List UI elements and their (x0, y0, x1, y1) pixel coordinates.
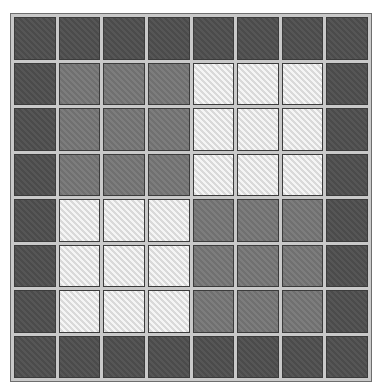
tile-medium[interactable] (193, 290, 235, 333)
tile-medium[interactable] (282, 290, 324, 333)
tile-light[interactable] (193, 63, 235, 106)
tile-light[interactable] (193, 154, 235, 197)
tile-medium[interactable] (59, 63, 101, 106)
tile-medium[interactable] (148, 108, 190, 151)
tile-light[interactable] (148, 199, 190, 242)
tile-dark[interactable] (326, 290, 368, 333)
tile-dark[interactable] (148, 336, 190, 379)
tile-medium[interactable] (59, 154, 101, 197)
tile-dark[interactable] (14, 290, 56, 333)
tile-medium[interactable] (237, 199, 279, 242)
tile-light[interactable] (148, 290, 190, 333)
tile-light[interactable] (237, 108, 279, 151)
tile-dark[interactable] (193, 17, 235, 60)
tile-light[interactable] (237, 154, 279, 197)
tile-medium[interactable] (237, 290, 279, 333)
tile-medium[interactable] (282, 245, 324, 288)
tile-dark[interactable] (326, 63, 368, 106)
tile-medium[interactable] (193, 245, 235, 288)
tile-dark[interactable] (103, 336, 145, 379)
tile-dark[interactable] (282, 336, 324, 379)
tile-medium[interactable] (103, 154, 145, 197)
tile-dark[interactable] (14, 63, 56, 106)
tile-light[interactable] (282, 154, 324, 197)
tile-light[interactable] (237, 63, 279, 106)
tile-light[interactable] (59, 199, 101, 242)
tile-dark[interactable] (237, 17, 279, 60)
tile-light[interactable] (59, 290, 101, 333)
tile-dark[interactable] (237, 336, 279, 379)
tile-dark[interactable] (14, 17, 56, 60)
tile-dark[interactable] (59, 336, 101, 379)
tile-light[interactable] (103, 199, 145, 242)
tile-light[interactable] (282, 108, 324, 151)
tile-dark[interactable] (282, 17, 324, 60)
tile-grid (14, 17, 368, 378)
tile-dark[interactable] (326, 336, 368, 379)
tile-dark[interactable] (326, 199, 368, 242)
tile-dark[interactable] (59, 17, 101, 60)
tile-dark[interactable] (14, 108, 56, 151)
tile-dark[interactable] (326, 17, 368, 60)
tile-dark[interactable] (193, 336, 235, 379)
tile-dark[interactable] (14, 336, 56, 379)
tile-light[interactable] (193, 108, 235, 151)
tile-medium[interactable] (103, 63, 145, 106)
tile-medium[interactable] (148, 154, 190, 197)
tile-dark[interactable] (326, 245, 368, 288)
tile-medium[interactable] (282, 199, 324, 242)
tile-light[interactable] (148, 245, 190, 288)
tile-dark[interactable] (14, 199, 56, 242)
tile-light[interactable] (282, 63, 324, 106)
tile-medium[interactable] (103, 108, 145, 151)
tile-dark[interactable] (103, 17, 145, 60)
tile-dark[interactable] (326, 154, 368, 197)
tile-medium[interactable] (148, 63, 190, 106)
tile-medium[interactable] (237, 245, 279, 288)
tile-dark[interactable] (148, 17, 190, 60)
tile-light[interactable] (103, 290, 145, 333)
game-board (10, 13, 372, 382)
tile-dark[interactable] (326, 108, 368, 151)
tile-medium[interactable] (193, 199, 235, 242)
tile-dark[interactable] (14, 245, 56, 288)
tile-light[interactable] (103, 245, 145, 288)
tile-medium[interactable] (59, 108, 101, 151)
tile-light[interactable] (59, 245, 101, 288)
tile-dark[interactable] (14, 154, 56, 197)
